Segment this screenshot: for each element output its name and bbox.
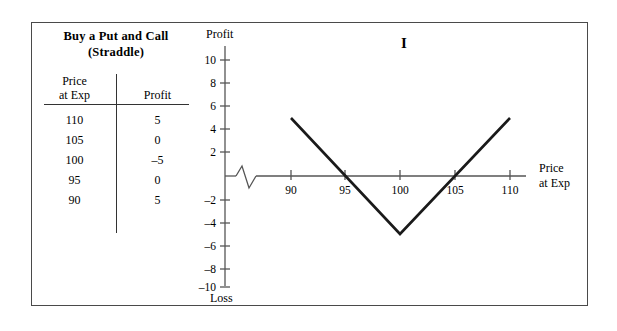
table-row: 90 5: [44, 187, 189, 207]
cell-profit: 5: [116, 105, 189, 128]
y-tick-label: –6: [204, 240, 217, 252]
table-row: 95 0: [44, 167, 189, 187]
cell-profit: 0: [116, 127, 189, 147]
axis-break-zigzag: [236, 166, 256, 188]
x-tick-label: 105: [446, 184, 464, 196]
y-tick-label: –2: [204, 194, 217, 206]
table-header: Price at Exp Profit: [44, 74, 189, 105]
x-tick-label: 100: [391, 184, 409, 196]
table-row: 105 0: [44, 127, 189, 147]
x-axis-label-line1: Price: [539, 161, 564, 175]
y-tick-label: 8: [210, 77, 216, 89]
cell-price: 110: [44, 105, 117, 128]
chart-svg: I Profit Loss 10 8 6 4: [196, 22, 596, 312]
profit-table: Price at Exp Profit 110 5 105 0 100 –5 9…: [44, 74, 189, 233]
x-axis-ticks: [291, 170, 510, 180]
cell-profit: 0: [116, 167, 189, 187]
divider-tail: [116, 207, 189, 233]
x-tick-label: 95: [339, 184, 351, 196]
y-tick-label: 2: [210, 146, 216, 158]
column-header-price: Price at Exp: [44, 74, 117, 105]
x-tick-label: 110: [502, 184, 519, 196]
column-header-profit: Profit: [116, 74, 189, 105]
y-tick-label: 10: [205, 54, 217, 66]
divider-tail-spacer: [44, 207, 117, 233]
column-header-price-line2: at Exp: [44, 88, 106, 102]
cell-profit: –5: [116, 147, 189, 167]
y-tick-label: –8: [204, 263, 217, 275]
straddle-table-panel: Buy a Put and Call (Straddle) Price at E…: [36, 28, 196, 233]
cell-price: 105: [44, 127, 117, 147]
table-title-line1: Buy a Put and Call: [63, 29, 168, 43]
table-divider-tail-row: [44, 207, 189, 233]
table-row: 110 5: [44, 105, 189, 128]
y-axis-tick-labels: 10 8 6 4 2 –2 –4 –6 –8 –10: [198, 54, 217, 293]
x-tick-label: 90: [285, 184, 297, 196]
table-body: 110 5 105 0 100 –5 95 0 90 5: [44, 105, 189, 234]
cell-price: 100: [44, 147, 117, 167]
x-axis-label-line2: at Exp: [539, 176, 570, 190]
cell-price: 95: [44, 167, 117, 187]
cell-profit: 5: [116, 187, 189, 207]
panel-label: I: [401, 35, 407, 51]
x-axis-tick-labels: 90 95 100 105 110: [285, 184, 518, 196]
straddle-payoff-chart: I Profit Loss 10 8 6 4: [196, 22, 596, 312]
table-header-row: Price at Exp Profit: [44, 74, 189, 105]
table-row: 100 –5: [44, 147, 189, 167]
table-title-line2: (Straddle): [36, 44, 196, 60]
y-axis-label-top: Profit: [206, 27, 234, 41]
column-header-price-line1: Price: [44, 74, 106, 88]
cell-price: 90: [44, 187, 117, 207]
y-tick-label: –4: [204, 217, 217, 229]
y-tick-label: 4: [210, 123, 216, 135]
y-tick-label: 6: [210, 100, 216, 112]
y-tick-label: –10: [198, 281, 217, 293]
y-axis-label-bottom: Loss: [210, 291, 233, 305]
table-title: Buy a Put and Call (Straddle): [36, 28, 196, 60]
